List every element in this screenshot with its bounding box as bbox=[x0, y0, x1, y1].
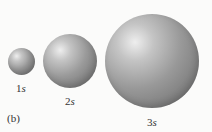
sphere-3s bbox=[105, 14, 199, 108]
label-3s: 3s bbox=[147, 117, 157, 128]
sphere-2s bbox=[43, 34, 97, 88]
label-2s-letter: s bbox=[71, 95, 75, 107]
label-3s-letter: s bbox=[153, 116, 157, 128]
label-1s-letter: s bbox=[22, 82, 26, 94]
label-2s: 2s bbox=[65, 96, 75, 107]
label-1s: 1s bbox=[16, 83, 26, 94]
sphere-1s bbox=[8, 48, 35, 75]
panel-label: (b) bbox=[7, 113, 20, 124]
